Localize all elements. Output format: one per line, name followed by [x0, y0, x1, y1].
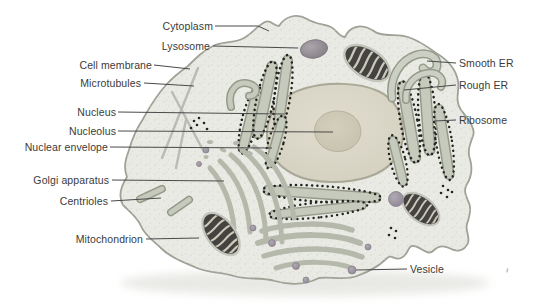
label-microtubules: Microtubules [80, 76, 141, 90]
label-cytoplasm: Cytoplasm [163, 19, 214, 33]
label-nuclear-envelope: Nuclear envelope [25, 140, 108, 154]
label-rough-er: Rough ER [459, 78, 508, 92]
label-nucleolus: Nucleolus [69, 124, 116, 138]
label-ribosome: Ribosome [459, 113, 507, 127]
label-nucleus: Nucleus [77, 105, 116, 119]
label-vesicle: Vesicle [410, 262, 444, 276]
nucleolus-shape [315, 111, 361, 151]
label-golgi-apparatus: Golgi apparatus [33, 173, 109, 187]
animal-cell-diagram: Cytoplasm Lysosome Cell membrane Microtu… [0, 0, 537, 307]
large-vesicle-shape [389, 192, 404, 207]
label-mitochondrion: Mitochondrion [76, 232, 143, 246]
label-lysosome: Lysosome [162, 39, 210, 53]
label-smooth-er: Smooth ER [459, 56, 514, 70]
stray-mark [506, 268, 509, 273]
label-cell-membrane: Cell membrane [80, 58, 153, 72]
label-centrioles: Centrioles [60, 194, 108, 208]
pointer-line-cell-membrane [154, 65, 190, 69]
